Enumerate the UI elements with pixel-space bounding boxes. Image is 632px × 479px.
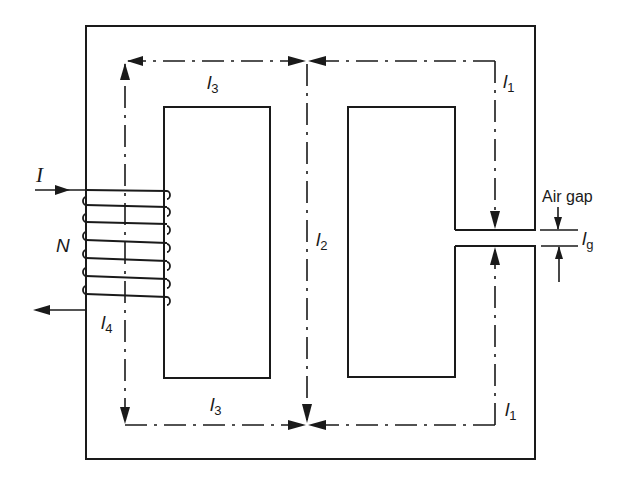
- arrow-up-gap: [490, 247, 500, 265]
- mean-path: [125, 61, 495, 425]
- arrow-left-top-center: [308, 56, 326, 66]
- arrow-right-top-center: [288, 56, 306, 66]
- right-window: [348, 107, 455, 377]
- left-window: [164, 107, 270, 378]
- arrow-right-bottom-center: [288, 420, 306, 430]
- label-l3-bottom: l3: [210, 395, 221, 417]
- coil-winding: [33, 185, 170, 315]
- label-l2: l2: [316, 230, 327, 252]
- arrow-down-left: [120, 407, 130, 424]
- label-turns-N: N: [56, 236, 70, 255]
- label-current-I: I: [36, 165, 43, 186]
- label-l1-top: l1: [503, 72, 514, 94]
- gap-arrow-up: [555, 246, 563, 259]
- gap-arrow-down: [554, 217, 562, 230]
- arrow-down-gap: [490, 211, 500, 229]
- arrow-left-bottom-center: [308, 420, 326, 430]
- label-l4: l4: [101, 313, 112, 335]
- label-l3-top: l3: [207, 73, 218, 95]
- air-gap-dimension: [540, 207, 578, 282]
- arrow-up-left: [120, 63, 130, 80]
- current-out-arrow: [33, 305, 50, 315]
- current-in-arrow: [55, 185, 70, 195]
- arrow-left-top: [127, 56, 143, 66]
- path-arrowheads: [120, 56, 500, 430]
- arrow-down-center: [302, 404, 312, 423]
- label-lg: lg: [582, 229, 593, 251]
- label-air-gap: Air gap: [542, 189, 593, 205]
- label-l1-bottom: l1: [505, 400, 516, 422]
